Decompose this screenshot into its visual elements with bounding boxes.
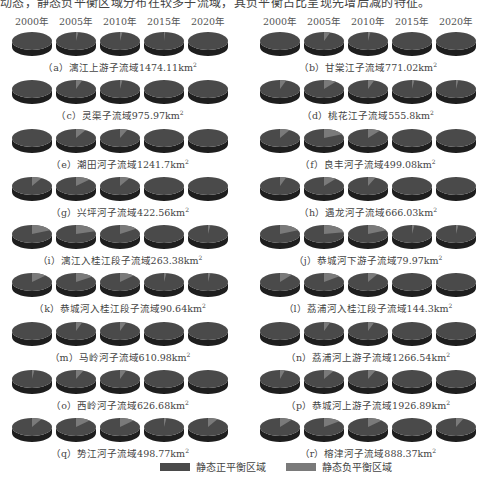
pie-slice-positive — [188, 177, 228, 195]
chart-panel-i: （i）漓江入桂江段子流域263.38km2 — [8, 221, 232, 269]
pie-c-3 — [142, 78, 186, 106]
panel-caption-text: （r）榕津河子流域888.37km — [300, 449, 433, 460]
legend-swatch-positive — [160, 463, 190, 471]
pie-b-4 — [434, 30, 478, 58]
pie-slice-positive — [144, 80, 184, 98]
pie-slice-positive — [144, 225, 184, 243]
panel-caption-text: （b）甘棠江子流域771.02km — [299, 62, 433, 73]
pie-c-2 — [98, 78, 142, 106]
pie-o-0 — [10, 368, 54, 396]
pie-n-1 — [302, 320, 346, 348]
pie-p-1 — [302, 368, 346, 396]
pie-n-4 — [434, 320, 478, 348]
pie-k-2 — [98, 271, 142, 299]
pie-slice-positive — [188, 80, 228, 98]
pie-i-4 — [186, 223, 230, 251]
panel-caption-text: （e）潮田河子流域1241.7km — [51, 159, 185, 170]
pie-slice-positive — [188, 129, 228, 147]
pie-row — [8, 76, 232, 106]
right-column: 2000年 2005年 2010年 2015年 2020年 （b）甘棠江子流域7… — [256, 14, 480, 463]
superscript: 2 — [446, 351, 450, 358]
superscript: 2 — [439, 254, 443, 261]
chart-panel-o: （o）西岭河子流域626.68km2 — [8, 366, 232, 414]
year-label: 2005年 — [302, 14, 346, 28]
pie-j-3 — [390, 223, 434, 251]
panel-caption-text: （k）恭城河入桂江段子流域90.64km — [34, 304, 202, 315]
pie-o-4 — [186, 368, 230, 396]
pie-row — [8, 269, 232, 299]
panel-caption: （r）榕津河子流域888.37km2 — [256, 444, 480, 458]
panel-caption: （a）漓江上游子流域1474.11km2 — [8, 58, 232, 72]
superscript: 2 — [187, 351, 191, 358]
pie-l-2 — [346, 271, 390, 299]
pie-slice-positive — [144, 370, 184, 388]
chart-panel-q: （q）势江河子流域498.77km2 — [8, 414, 232, 462]
pie-row — [8, 221, 232, 251]
legend-item-negative: 静态负平衡区域 — [286, 459, 392, 474]
pie-row — [256, 173, 480, 203]
pie-i-0 — [10, 223, 54, 251]
header-text: 动态，静态负平衡区域分布在较多子流域，其负平衡占比呈现先增后减的特征。 — [0, 0, 480, 10]
pie-slice-positive — [12, 32, 52, 50]
superscript: 2 — [199, 254, 203, 261]
pie-row — [256, 318, 480, 348]
pie-i-3 — [142, 223, 186, 251]
pie-slice-positive — [436, 177, 476, 195]
pie-a-3 — [142, 30, 186, 58]
panel-caption: （e）潮田河子流域1241.7km2 — [8, 155, 232, 169]
pie-k-0 — [10, 271, 54, 299]
pie-slice-positive — [392, 370, 432, 388]
pie-r-0 — [258, 416, 302, 444]
superscript: 2 — [185, 447, 189, 454]
pie-e-1 — [54, 127, 98, 155]
pie-row — [256, 76, 480, 106]
superscript: 2 — [449, 302, 453, 309]
chart-panel-d: （d）桃花江子流域555.8km2 — [256, 76, 480, 124]
pie-k-1 — [54, 271, 98, 299]
superscript: 2 — [446, 399, 450, 406]
pie-j-4 — [434, 223, 478, 251]
pie-a-1 — [54, 30, 98, 58]
panel-caption-text: （g）兴坪河子流域422.56km — [51, 207, 185, 218]
pie-f-0 — [258, 127, 302, 155]
panel-caption-text: （q）势江河子流域498.77km — [51, 449, 185, 460]
panel-caption: （l）荔浦河入桂江段子流域144.3km2 — [256, 299, 480, 313]
pie-k-4 — [186, 271, 230, 299]
pie-b-1 — [302, 30, 346, 58]
pie-row — [256, 414, 480, 444]
superscript: 2 — [432, 158, 436, 165]
superscript: 2 — [432, 447, 436, 454]
panel-caption-text: （o）西岭河子流域626.68km — [51, 400, 185, 411]
pie-h-0 — [258, 175, 302, 203]
pie-h-3 — [390, 175, 434, 203]
pie-g-1 — [54, 175, 98, 203]
legend-label-positive: 静态正平衡区域 — [196, 459, 266, 474]
pie-slice-positive — [436, 322, 476, 340]
pie-i-2 — [98, 223, 142, 251]
pie-q-1 — [54, 416, 98, 444]
pie-slice-positive — [436, 129, 476, 147]
pie-r-1 — [302, 416, 346, 444]
pie-c-1 — [54, 78, 98, 106]
pie-b-3 — [390, 30, 434, 58]
pie-l-1 — [302, 271, 346, 299]
pie-d-0 — [258, 78, 302, 106]
chart-panel-l: （l）荔浦河入桂江段子流域144.3km2 — [256, 269, 480, 317]
pie-r-2 — [346, 416, 390, 444]
chart-panel-m: （m）马岭河子流域610.98km2 — [8, 318, 232, 366]
panel-caption: （g）兴坪河子流域422.56km2 — [8, 203, 232, 217]
panel-caption-text: （h）遇龙河子流域666.03km — [299, 207, 433, 218]
year-label: 2015年 — [390, 14, 434, 28]
chart-panel-j: （j）恭城河下游子流域79.97km2 — [256, 221, 480, 269]
pie-b-0 — [258, 30, 302, 58]
pie-q-0 — [10, 416, 54, 444]
panel-caption-text: （f）良丰河子流域499.08km — [300, 159, 432, 170]
pie-l-3 — [390, 271, 434, 299]
pie-d-3 — [390, 78, 434, 106]
panel-caption: （d）桃花江子流域555.8km2 — [256, 106, 480, 120]
year-label: 2020年 — [434, 14, 478, 28]
pie-c-4 — [186, 78, 230, 106]
pie-row — [8, 173, 232, 203]
pie-slice-positive — [260, 32, 300, 50]
pie-e-0 — [10, 127, 54, 155]
